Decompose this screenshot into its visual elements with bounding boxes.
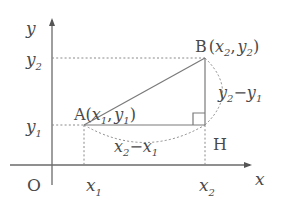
tick-y1: y1 bbox=[25, 116, 42, 139]
tick-x1: x1 bbox=[86, 175, 102, 198]
vertical-length-label: y2−y1 bbox=[217, 83, 262, 104]
right-angle-mark bbox=[193, 113, 205, 125]
y-axis-label: y bbox=[25, 18, 36, 38]
horizontal-length-label: x2−x1 bbox=[114, 137, 158, 158]
tick-y2: y2 bbox=[25, 49, 42, 72]
point-A-label: A(x1,y1) bbox=[73, 105, 136, 126]
x-axis-label: x bbox=[255, 169, 265, 189]
point-B-label: B(x2,y2) bbox=[195, 37, 259, 58]
coordinate-diagram: y x O y2 y1 x1 x2 A(x1,y1) B(x2,y2) H x2… bbox=[0, 0, 282, 210]
tick-x2: x2 bbox=[199, 175, 215, 198]
origin-label: O bbox=[27, 175, 41, 195]
point-H-label: H bbox=[213, 135, 227, 154]
